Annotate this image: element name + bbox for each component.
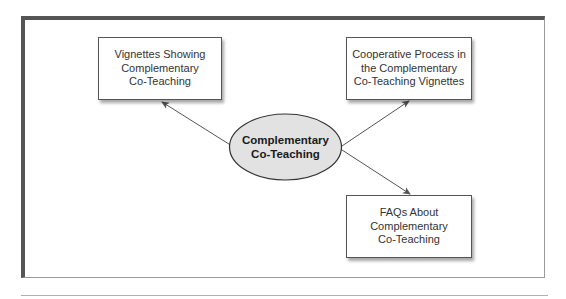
- node-faqs: FAQs About Complementary Co-Teaching: [346, 195, 472, 258]
- node-faqs-label: FAQs About Complementary Co-Teaching: [370, 206, 448, 247]
- node-vignettes: Vignettes Showing Complementary Co-Teach…: [98, 37, 222, 100]
- arrow-to-faqs: [339, 148, 410, 194]
- node-vignettes-label: Vignettes Showing Complementary Co-Teach…: [115, 48, 206, 89]
- node-cooperative-process-label: Cooperative Process in the Complementary…: [352, 48, 466, 89]
- node-cooperative-process: Cooperative Process in the Complementary…: [346, 37, 472, 100]
- center-node-label: Complementary Co-Teaching: [229, 114, 342, 180]
- arrow-to-vignettes: [162, 102, 232, 146]
- arrow-to-cooperative-process: [339, 101, 409, 148]
